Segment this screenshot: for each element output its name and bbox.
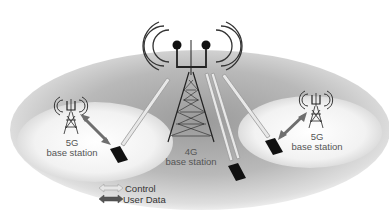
small-right-label-line2: base station (291, 141, 342, 152)
small-cell-coverage-left (17, 102, 173, 182)
legend-control-label: Control (125, 183, 156, 194)
legend-user-data-label: User Data (123, 194, 166, 205)
diagram-canvas: 4G base station 5G base station 5G base … (0, 0, 389, 222)
small-left-label-line2: base station (46, 147, 97, 158)
macro-label-line2: base station (165, 156, 216, 167)
network-diagram: 4G base station 5G base station 5G base … (0, 0, 389, 222)
